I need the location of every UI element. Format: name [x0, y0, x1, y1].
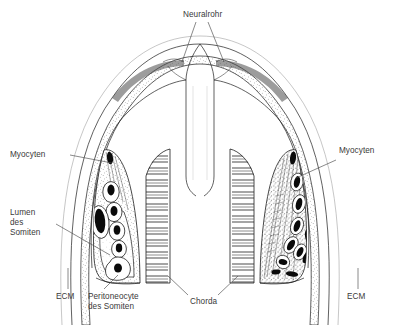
- embryo-cross-section-figure: Neuralrohr Myocyten Lumen des Somiten EC…: [0, 0, 400, 325]
- label-ecm-right: ECM: [347, 292, 365, 302]
- leader-chorda-right: [218, 276, 238, 295]
- leader-neuralrohr-right: [208, 22, 224, 62]
- leader-chorda-left: [168, 276, 188, 295]
- label-myocyten-right: Myocyten: [339, 146, 374, 156]
- diagram-canvas: [0, 0, 400, 325]
- myocyte-cell: [112, 240, 127, 257]
- chorda-structure: [140, 149, 260, 283]
- label-lumen-des-somiten: Lumen des Somiten: [10, 208, 40, 239]
- label-neuralrohr: Neuralrohr: [183, 10, 222, 20]
- myocyte-cell: [103, 182, 119, 203]
- myocyte-cell: [109, 222, 125, 240]
- label-peritoneocyte-des-somiten: Peritoneocyte des Somiten: [88, 292, 139, 312]
- label-myocyten-left: Myocyten: [10, 150, 45, 160]
- label-ecm-left: ECM: [56, 292, 74, 302]
- label-chorda: Chorda: [190, 297, 217, 307]
